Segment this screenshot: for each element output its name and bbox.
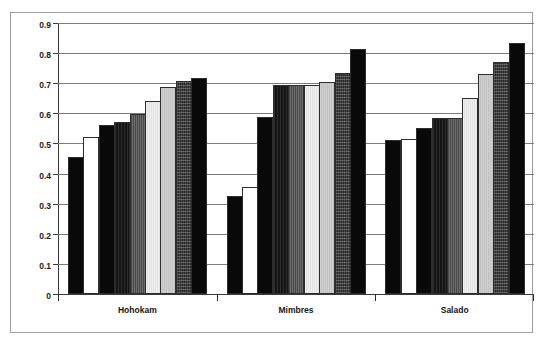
- y-axis-tick-label: 0.7: [13, 81, 51, 90]
- x-axis-tick: [375, 294, 376, 301]
- y-axis-tick: [53, 204, 58, 205]
- bar: [227, 196, 243, 294]
- y-axis-tick: [53, 53, 58, 54]
- y-axis-tick-label: 0: [13, 292, 51, 301]
- x-axis-category-labels: HohokamMimbresSalado: [58, 305, 534, 327]
- y-axis-tick-label: 0.4: [13, 171, 51, 180]
- x-axis-category-label-salado: Salado: [441, 305, 469, 315]
- bar: [160, 87, 176, 294]
- bar: [288, 85, 304, 294]
- gridline: [58, 53, 534, 54]
- bar: [242, 187, 258, 294]
- y-axis-tick-labels: 00.10.20.30.40.50.60.70.80.9: [11, 25, 51, 296]
- bar: [493, 62, 509, 294]
- bar: [478, 74, 494, 294]
- bar: [335, 73, 351, 294]
- bar: [416, 128, 432, 295]
- bar: [304, 85, 320, 294]
- bar: [509, 43, 525, 294]
- y-axis-tick-label: 0.6: [13, 111, 51, 120]
- bar: [401, 139, 417, 294]
- bar: [319, 82, 335, 294]
- bar: [176, 81, 192, 294]
- x-axis-tick: [58, 294, 59, 301]
- bar: [462, 98, 478, 294]
- y-axis-tick-label: 0.5: [13, 141, 51, 150]
- x-axis-category-label-hohokam: Hohokam: [118, 305, 157, 315]
- y-axis-tick: [53, 234, 58, 235]
- x-axis-category-label-mimbres: Mimbres: [279, 305, 314, 315]
- axis-baseline: [58, 294, 534, 295]
- y-axis-tick-label: 0.8: [13, 51, 51, 60]
- bar: [68, 157, 84, 294]
- bar: [114, 122, 130, 294]
- y-axis-tick: [53, 83, 58, 84]
- bar: [257, 117, 273, 294]
- bar: [432, 118, 448, 294]
- y-axis-tick-label: 0.1: [13, 262, 51, 271]
- y-axis-tick-label: 0.3: [13, 201, 51, 210]
- bar: [191, 78, 207, 294]
- y-axis-tick: [53, 23, 58, 24]
- bar: [273, 85, 289, 294]
- page-title: [0, 0, 545, 12]
- y-axis-tick: [53, 264, 58, 265]
- y-axis-tick: [53, 143, 58, 144]
- plot-area: [58, 23, 534, 294]
- x-axis-tick: [533, 294, 534, 301]
- bar: [447, 118, 463, 294]
- bar: [385, 140, 401, 294]
- x-axis-tick: [217, 294, 218, 301]
- y-axis-tick-label: 0.2: [13, 232, 51, 241]
- bar: [350, 49, 366, 294]
- bar: [99, 125, 115, 294]
- bar: [145, 101, 161, 294]
- bar: [83, 137, 99, 294]
- gridline: [58, 23, 534, 24]
- bar: [130, 114, 146, 294]
- y-axis-tick: [53, 174, 58, 175]
- y-axis-tick-label: 0.9: [13, 21, 51, 30]
- chart-frame: 00.10.20.30.40.50.60.70.80.9 HohokamMimb…: [10, 12, 533, 333]
- y-axis-tick: [53, 113, 58, 114]
